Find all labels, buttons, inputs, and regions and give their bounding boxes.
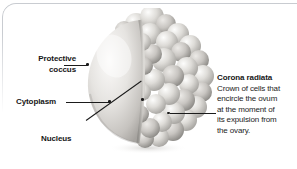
leader-line-protective-coccus bbox=[64, 65, 88, 66]
corona-body-line: the ovary. bbox=[217, 126, 295, 136]
ovum-diagram-page: Protective coccus Cytoplasm Nucleus Coro… bbox=[0, 0, 297, 169]
corona-body-line: Crown of cells that bbox=[217, 84, 295, 94]
corona-radiata-heading: Corona radiata bbox=[217, 73, 295, 84]
leader-dot-protective-coccus bbox=[86, 63, 89, 66]
label-cytoplasm: Cytoplasm bbox=[16, 97, 56, 108]
corona-body-line: at the moment of bbox=[217, 105, 295, 115]
leader-dot-nucleus bbox=[141, 98, 144, 101]
corona-radiata-description-block: Corona radiata Crown of cells that encir… bbox=[217, 73, 295, 136]
ovum-illustration bbox=[74, 8, 224, 156]
label-protective-coccus-line1: Protective bbox=[16, 54, 76, 65]
protective-coccus-hemisphere bbox=[88, 20, 145, 143]
corona-body-line: its expulsion from bbox=[217, 115, 295, 125]
label-nucleus: Nucleus bbox=[41, 134, 71, 145]
leader-line-cytoplasm bbox=[66, 102, 110, 103]
corona-radiata-body: Crown of cells that encircle the ovum at… bbox=[217, 84, 295, 136]
leader-line-corona-radiata bbox=[170, 113, 216, 114]
label-protective-coccus-line2: coccus bbox=[16, 65, 76, 76]
corona-body-line: encircle the ovum bbox=[217, 94, 295, 104]
